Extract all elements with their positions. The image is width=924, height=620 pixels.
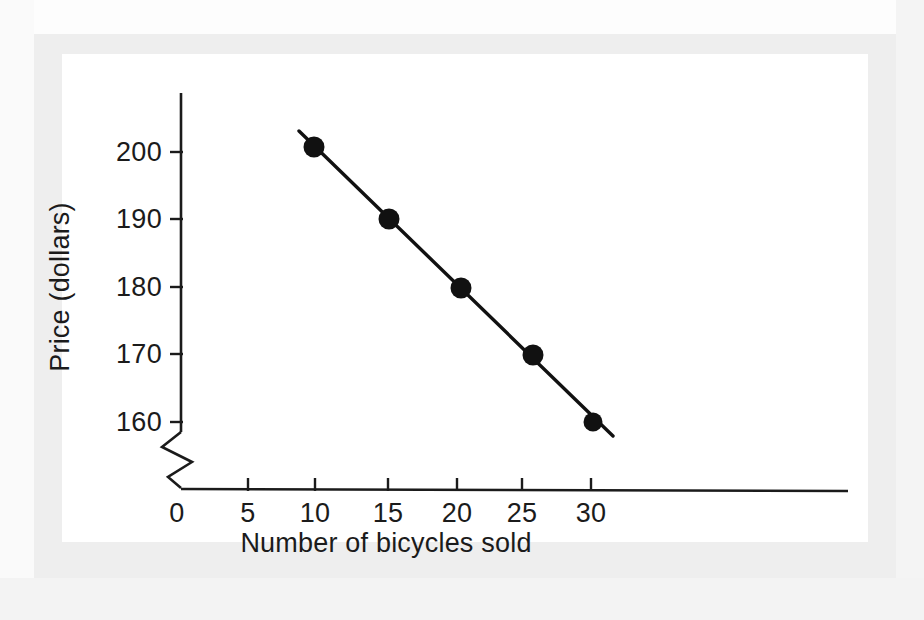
data-point-25-170: [523, 345, 544, 366]
y-axis-break-icon: [162, 432, 192, 488]
x-tick-label-20: 20: [442, 498, 473, 529]
x-tick-label-10: 10: [300, 498, 331, 529]
y-tick-label-200: 200: [98, 137, 162, 168]
data-point-30-160: [584, 413, 603, 432]
data-point-15-190: [379, 209, 400, 230]
y-tick-label-180: 180: [98, 272, 162, 303]
y-tick-label-170: 170: [98, 339, 162, 370]
y-axis-title: Price (dollars): [45, 202, 76, 372]
data-point-20-180: [451, 278, 472, 299]
x-tick-label-15: 15: [373, 498, 404, 529]
x-tick-label-5: 5: [240, 498, 255, 529]
x-axis-title: Number of bicycles sold: [240, 528, 531, 559]
y-tick-label-160: 160: [98, 407, 162, 438]
x-tick-label-25: 25: [507, 498, 538, 529]
chart-page: 200 190 180 170 160 0 5 10 15 20 25 30 N…: [0, 0, 924, 620]
plot-area: 200 190 180 170 160 0 5 10 15 20 25 30 N…: [0, 0, 924, 620]
x-axis-line: [181, 489, 848, 491]
x-tick-label-0: 0: [169, 498, 184, 529]
x-tick-label-30: 30: [576, 498, 607, 529]
data-point-10-200: [304, 137, 325, 158]
y-tick-label-190: 190: [98, 204, 162, 235]
